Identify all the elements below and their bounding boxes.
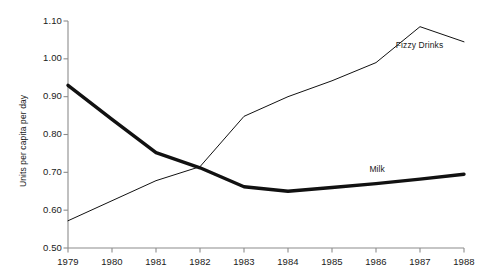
x-tick-label-1981: 1981 [135,256,177,267]
x-tick-label-1988: 1988 [443,256,485,267]
series-line-milk [68,85,464,191]
x-tick-label-1986: 1986 [355,256,397,267]
y-tick-label-1.10: 1.10 [20,15,62,26]
x-tick-label-1985: 1985 [311,256,353,267]
series-label-milk: Milk [369,164,385,174]
x-tick-label-1984: 1984 [267,256,309,267]
series-line-fizzy-drinks [68,27,464,221]
chart-series-lines [68,27,464,221]
y-tick-label-1.00: 1.00 [20,52,62,63]
chart-axes [64,21,465,253]
y-tick-label-0.50: 0.50 [20,242,62,253]
y-axis-title: Units per capita per day [18,94,28,186]
series-label-fizzy-drinks: Fizzy Drinks [396,40,443,50]
x-tick-label-1982: 1982 [179,256,221,267]
x-tick-label-1987: 1987 [399,256,441,267]
x-tick-label-1983: 1983 [223,256,265,267]
chart-container: 0.500.600.700.800.901.001.10 19791980198… [0,0,485,280]
y-tick-label-0.60: 0.60 [20,204,62,215]
x-tick-label-1979: 1979 [47,256,89,267]
x-tick-label-1980: 1980 [91,256,133,267]
